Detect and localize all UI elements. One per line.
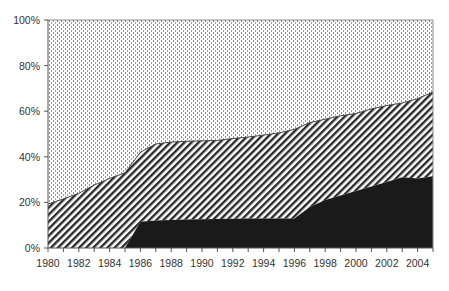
x-tick-label: 1996 xyxy=(283,257,307,269)
x-tick-label: 1992 xyxy=(221,257,245,269)
x-tick-label: 2002 xyxy=(375,257,399,269)
x-tick-label: 1982 xyxy=(67,257,91,269)
x-axis-labels: 1980198219841986198819901992199419961998… xyxy=(36,257,429,269)
x-tick-label: 1994 xyxy=(252,257,276,269)
x-tick-label: 2004 xyxy=(406,257,430,269)
x-tick-label: 2000 xyxy=(344,257,368,269)
x-tick-label: 1998 xyxy=(314,257,338,269)
x-tick-label: 1988 xyxy=(160,257,184,269)
y-tick-label: 60% xyxy=(19,105,40,117)
y-tick-label: 80% xyxy=(19,60,40,72)
y-tick-label: 100% xyxy=(13,14,40,26)
stacked-area-chart: 0%20%40%60%80%100% 198019821984198619881… xyxy=(0,0,449,291)
y-axis-labels: 0%20%40%60%80%100% xyxy=(13,14,40,254)
y-tick-label: 40% xyxy=(19,151,40,163)
x-tick-label: 1990 xyxy=(190,257,214,269)
x-tick-label: 1980 xyxy=(36,257,60,269)
x-tick-label: 1984 xyxy=(98,257,122,269)
plot-areas xyxy=(48,20,433,248)
y-tick-label: 0% xyxy=(25,242,40,254)
y-tick-label: 20% xyxy=(19,196,40,208)
x-tick-label: 1986 xyxy=(129,257,153,269)
